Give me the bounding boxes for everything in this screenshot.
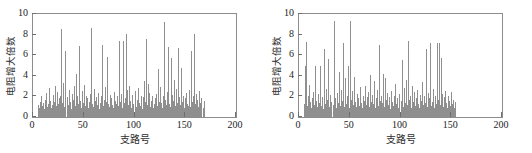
y-tick-label: 8	[272, 29, 294, 39]
plot-area-right	[298, 13, 503, 118]
plot-area-left	[32, 13, 237, 118]
x-axis-label-right: 支路号	[298, 134, 503, 146]
y-tick-mark	[32, 75, 36, 76]
x-tick-label: 0	[17, 119, 47, 130]
chart-panel-right: 电阻增大倍数 0246810050100150200 支路号	[266, 0, 532, 153]
x-tick-mark	[83, 112, 84, 117]
x-axis-label-left: 支路号	[32, 134, 237, 146]
x-tick-label: 0	[283, 119, 313, 130]
y-tick-label: 4	[6, 70, 28, 80]
x-tick-label: 200	[220, 119, 250, 130]
x-tick-mark	[349, 112, 350, 117]
bar-series-left	[33, 14, 236, 117]
y-tick-label: 10	[6, 8, 28, 18]
bar	[204, 101, 205, 117]
y-tick-label: 6	[6, 49, 28, 59]
y-tick-label: 8	[6, 29, 28, 39]
x-tick-label: 150	[169, 119, 199, 130]
x-tick-mark	[32, 112, 33, 117]
x-tick-mark	[501, 112, 502, 117]
x-tick-label: 50	[334, 119, 364, 130]
x-tick-mark	[235, 112, 236, 117]
chart-panel-left: 电阻增大倍数 0246810050100150200 支路号	[0, 0, 266, 153]
y-tick-mark	[32, 95, 36, 96]
y-axis-label-text: 电阻增大倍数	[269, 36, 283, 96]
bar-series-right	[299, 14, 502, 117]
x-tick-mark	[184, 112, 185, 117]
x-tick-label: 200	[486, 119, 516, 130]
y-tick-mark	[298, 54, 302, 55]
y-tick-label: 2	[6, 90, 28, 100]
y-tick-mark	[298, 95, 302, 96]
x-tick-label: 150	[435, 119, 465, 130]
x-tick-label: 100	[119, 119, 149, 130]
x-tick-label: 100	[385, 119, 415, 130]
y-tick-label: 6	[272, 49, 294, 59]
x-tick-mark	[450, 112, 451, 117]
y-tick-mark	[32, 54, 36, 55]
y-tick-mark	[298, 13, 302, 14]
y-tick-label: 4	[272, 70, 294, 80]
y-axis-label-text: 电阻增大倍数	[3, 36, 17, 96]
y-tick-label: 10	[272, 8, 294, 18]
x-tick-label: 50	[68, 119, 98, 130]
x-tick-mark	[400, 112, 401, 117]
y-tick-mark	[32, 34, 36, 35]
y-tick-label: 2	[272, 90, 294, 100]
x-tick-mark	[134, 112, 135, 117]
y-tick-mark	[32, 13, 36, 14]
y-tick-mark	[298, 75, 302, 76]
y-tick-mark	[298, 34, 302, 35]
dual-bar-chart-figure: 电阻增大倍数 0246810050100150200 支路号 电阻增大倍数 02…	[0, 0, 532, 153]
x-tick-mark	[298, 112, 299, 117]
bar	[455, 102, 456, 117]
